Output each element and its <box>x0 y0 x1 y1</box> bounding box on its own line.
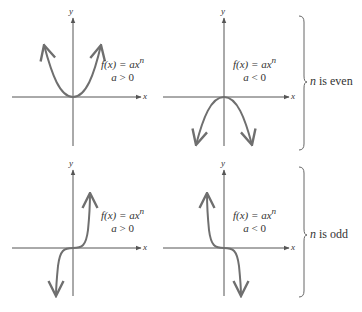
y-axis-label: y <box>221 6 225 16</box>
y-axis-label: y <box>69 6 73 16</box>
x-axis-label: x <box>143 91 147 101</box>
equation-label: f(x) = axn a > 0 <box>101 205 144 235</box>
y-axis-label: y <box>221 158 225 168</box>
curve <box>44 45 73 97</box>
diagram-canvas <box>0 0 362 312</box>
y-axis-label: y <box>69 158 73 168</box>
curve <box>207 193 224 248</box>
note-n-odd: n is odd <box>310 227 348 242</box>
curve <box>196 97 224 145</box>
curve <box>73 193 90 248</box>
bracket-odd <box>299 167 307 297</box>
equation-label: f(x) = axn a > 0 <box>101 54 144 84</box>
equation-label: f(x) = axn a < 0 <box>233 205 276 235</box>
x-axis-label: x <box>291 242 295 252</box>
equation-label: f(x) = axn a < 0 <box>233 54 276 84</box>
note-n-even: n is even <box>310 74 353 89</box>
x-axis-label: x <box>291 91 295 101</box>
bracket-even <box>299 16 307 150</box>
x-axis-label: x <box>143 242 147 252</box>
